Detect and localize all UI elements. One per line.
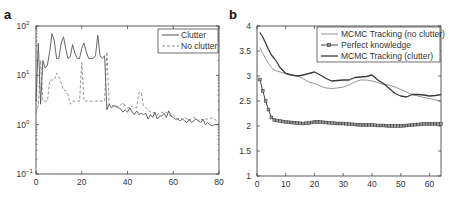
square-marker: [304, 122, 307, 125]
y-tick-label: 10: [17, 21, 27, 31]
square-marker: [333, 122, 336, 125]
square-marker: [273, 119, 276, 122]
square-marker: [353, 123, 356, 126]
square-marker: [296, 122, 299, 125]
panel-a: a 02040608010210110010−1 Clutter No clut…: [4, 7, 224, 187]
x-tick-label: 10: [281, 179, 291, 189]
panel-b-label: b: [229, 7, 237, 22]
square-marker: [342, 122, 345, 125]
square-marker: [284, 121, 287, 124]
square-marker: [376, 124, 379, 127]
legend-clutter: Clutter: [181, 30, 206, 40]
square-marker: [385, 124, 388, 127]
square-marker: [425, 123, 428, 126]
square-marker: [405, 124, 408, 127]
square-marker: [322, 121, 325, 124]
legend-mcmc-clutter: MCMC Tracking (clutter): [341, 51, 433, 61]
square-marker: [388, 125, 391, 128]
y-tick-label: 3.5: [239, 46, 251, 56]
square-marker: [399, 125, 402, 128]
y-tick-label: 2: [246, 121, 251, 131]
y-tick-exponent: 0: [26, 119, 30, 125]
x-tick-label: 80: [214, 177, 224, 187]
y-tick-label: 2.5: [239, 96, 251, 106]
square-marker: [310, 121, 313, 124]
perfect-knowledge-line: [260, 80, 441, 127]
x-tick-label: 50: [396, 179, 406, 189]
square-marker: [299, 122, 302, 125]
figure: a 02040608010210110010−1 Clutter No clut…: [0, 0, 455, 197]
square-marker: [327, 121, 330, 124]
y-tick-label: 3: [246, 71, 251, 81]
square-marker: [350, 123, 353, 126]
square-marker: [396, 125, 399, 128]
square-marker: [307, 122, 310, 125]
square-marker: [359, 124, 362, 127]
square-marker: [261, 90, 264, 93]
square-marker: [431, 123, 434, 126]
square-marker: [382, 124, 385, 127]
square-marker: [267, 108, 270, 111]
legend-no-clutter: No clutter: [181, 41, 218, 51]
y-tick-exponent: −1: [26, 168, 34, 174]
x-tick-label: 60: [425, 179, 435, 189]
square-marker: [287, 121, 290, 124]
square-marker: [362, 124, 365, 127]
y-tick-exponent: 2: [26, 20, 30, 26]
x-tick-label: 0: [255, 179, 260, 189]
square-marker: [365, 124, 368, 127]
x-tick-label: 40: [123, 177, 133, 187]
square-marker: [293, 121, 296, 124]
legend-perfect-knowledge: Perfect knowledge: [341, 40, 411, 50]
y-tick-exponent: 1: [26, 69, 30, 75]
square-marker: [279, 120, 282, 123]
square-marker: [316, 121, 319, 124]
square-marker: [419, 123, 422, 126]
square-marker: [368, 124, 371, 127]
panel-b-legend: MCMC Tracking (no clutter) Perfect knowl…: [317, 27, 445, 62]
square-marker: [281, 120, 284, 123]
square-marker: [345, 122, 348, 125]
square-marker: [348, 123, 351, 126]
square-marker: [373, 124, 376, 127]
square-marker: [391, 125, 394, 128]
square-marker: [371, 124, 374, 127]
square-marker: [264, 100, 267, 103]
square-marker: [330, 122, 333, 125]
y-tick-label: 10: [17, 120, 27, 130]
square-marker: [437, 123, 440, 126]
square-marker: [313, 121, 316, 124]
legend-mcmc-no-clutter: MCMC Tracking (no clutter): [341, 29, 445, 39]
square-marker: [414, 123, 417, 126]
square-marker: [290, 121, 293, 124]
square-marker: [440, 123, 443, 126]
legend-square-marker-icon: [328, 44, 331, 47]
panel-b: b 010203040506043.532.521.51 MCMC Tracki…: [229, 7, 445, 189]
square-marker: [394, 125, 397, 128]
x-tick-label: 20: [310, 179, 320, 189]
no-clutter-line: [36, 52, 219, 121]
panel-a-legend: Clutter No clutter: [158, 29, 218, 53]
square-marker: [339, 122, 342, 125]
square-marker: [379, 124, 382, 127]
square-marker: [434, 123, 437, 126]
square-marker: [417, 123, 420, 126]
square-marker: [411, 124, 414, 127]
panel-a-label: a: [4, 7, 12, 22]
square-marker: [428, 123, 431, 126]
x-tick-label: 60: [169, 177, 179, 187]
square-marker: [356, 123, 359, 126]
square-marker: [270, 116, 273, 119]
square-marker: [258, 78, 261, 81]
square-marker: [319, 121, 322, 124]
y-tick-label: 1: [246, 171, 251, 181]
y-tick-label: 10: [17, 70, 27, 80]
x-tick-label: 40: [367, 179, 377, 189]
x-tick-label: 0: [34, 177, 39, 187]
y-tick-label: 10: [17, 169, 27, 179]
square-marker: [325, 121, 328, 124]
square-marker: [336, 122, 339, 125]
square-marker: [276, 119, 279, 122]
y-tick-label: 1.5: [239, 146, 251, 156]
square-marker: [402, 124, 405, 127]
